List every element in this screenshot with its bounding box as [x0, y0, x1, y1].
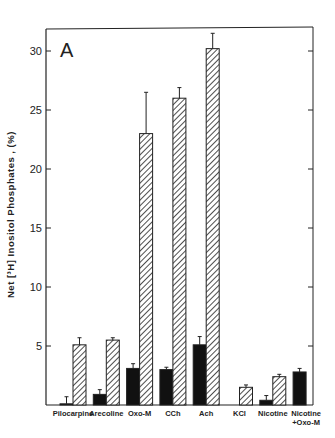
bar-group: [160, 88, 186, 405]
bar-solid: [60, 404, 73, 405]
bar-hatched: [206, 49, 219, 405]
category-label: Ach: [199, 409, 214, 418]
bar-solid: [193, 345, 206, 405]
bars: [60, 33, 306, 405]
category-label: KCl: [233, 409, 246, 418]
bar-solid: [93, 394, 106, 405]
category-labels: PilocarpineArecolineOxo-MCChAchKClNicoti…: [53, 409, 321, 427]
bar-group: [293, 368, 306, 405]
panel-label: A: [60, 39, 74, 61]
bar-hatched: [106, 340, 119, 405]
y-tick-label: 20: [30, 163, 42, 175]
category-label: Nicotine: [258, 409, 288, 418]
category-label: Oxo-M: [128, 409, 151, 418]
bar-group: [260, 374, 286, 405]
bar-group: [93, 338, 119, 405]
category-label: Nicotine: [291, 409, 321, 418]
y-axis-label: Net [³H] Inositol Phosphates , (%): [5, 131, 16, 298]
y-axis-ticks: 51015202530: [30, 45, 51, 352]
y-axis-label-text: Net [³H] Inositol Phosphates , (%): [5, 131, 16, 298]
y-tick-label: 10: [30, 281, 42, 293]
bar-group: [193, 33, 219, 405]
bar-hatched: [273, 377, 286, 405]
bar-chart: A 51015202530 Net [³H] Inositol Phosphat…: [0, 0, 335, 438]
bar-solid: [293, 372, 306, 405]
category-label: Pilocarpine: [53, 409, 93, 418]
bar-hatched: [73, 345, 86, 405]
bar-hatched: [173, 98, 186, 405]
category-label: Arecoline: [89, 409, 123, 418]
bar-solid: [260, 400, 273, 405]
bar-hatched: [240, 387, 253, 405]
top-border: [46, 27, 313, 29]
category-label-line2: +Oxo-M: [292, 418, 320, 427]
category-label: CCh: [165, 409, 181, 418]
bar-group: [127, 92, 153, 405]
y-tick-label: 25: [30, 104, 42, 116]
y-tick-label: 5: [36, 340, 42, 352]
y-tick-label: 30: [30, 45, 42, 57]
bar-group: [60, 338, 86, 405]
bar-group: [240, 385, 253, 405]
right-axis-ticks: [308, 51, 313, 346]
bar-solid: [127, 368, 140, 405]
bar-hatched: [140, 134, 153, 405]
y-tick-label: 15: [30, 222, 42, 234]
bar-solid: [160, 370, 173, 405]
